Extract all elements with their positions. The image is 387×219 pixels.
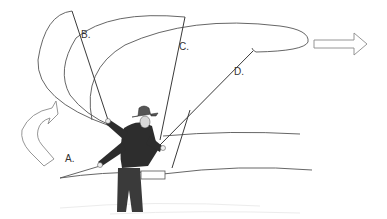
line-low-3 bbox=[163, 168, 312, 174]
angler-face bbox=[140, 116, 150, 128]
right-arrow-icon bbox=[314, 33, 367, 55]
angler-waders bbox=[117, 168, 143, 212]
line-low-1 bbox=[163, 132, 300, 136]
rods bbox=[72, 11, 253, 168]
label-c: C. bbox=[179, 42, 189, 52]
water-surface bbox=[60, 203, 300, 214]
angler-hand-left bbox=[98, 163, 103, 168]
angler-hand-front bbox=[161, 146, 166, 151]
diagram-canvas bbox=[0, 0, 387, 219]
angler-hand-right bbox=[106, 119, 111, 124]
rod-c bbox=[160, 17, 185, 140]
line-low-4 bbox=[60, 166, 100, 178]
fly-casting-diagram: A. B. C. D. bbox=[0, 0, 387, 219]
stripping-basket bbox=[141, 171, 165, 179]
label-b: B. bbox=[81, 30, 90, 40]
fly-lines bbox=[38, 11, 312, 178]
label-a: A. bbox=[65, 154, 74, 164]
curved-up-arrow-icon bbox=[22, 101, 58, 166]
label-d: D. bbox=[234, 67, 244, 77]
rod-d-guide bbox=[172, 110, 190, 168]
angler-hat bbox=[132, 106, 158, 117]
angler-figure bbox=[98, 106, 166, 212]
